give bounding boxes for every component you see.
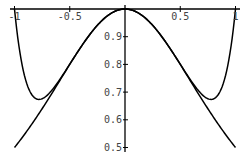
y-tick-label: 0.8 <box>104 59 122 70</box>
x-tick-label: 1 <box>232 11 238 22</box>
x-tick-label: 0.5 <box>171 11 189 22</box>
y-tick-label: 0.9 <box>104 31 122 42</box>
y-tick-label: 0.5 <box>104 142 122 153</box>
y-tick-label: 0.7 <box>104 87 122 98</box>
x-tick-label: -0.5 <box>58 11 82 22</box>
chart-plot: -1-0.50.51 0.90.80.70.60.5 <box>0 0 249 162</box>
y-tick-label: 0.6 <box>104 114 122 125</box>
x-tick-label: -1 <box>8 11 20 22</box>
